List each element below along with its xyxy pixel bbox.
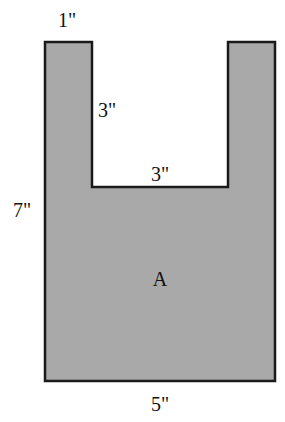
- notch-width-label: 3": [151, 163, 169, 185]
- shape-name-label: A: [153, 268, 168, 290]
- height-label: 7": [13, 199, 31, 221]
- bottom-width-label: 5": [151, 393, 169, 415]
- u-shape-diagram: 1" 3" 3" 7" A 5": [0, 0, 285, 422]
- top-arm-width-label: 1": [58, 9, 76, 31]
- notch-depth-label: 3": [98, 99, 116, 121]
- u-shape-region: [45, 42, 275, 381]
